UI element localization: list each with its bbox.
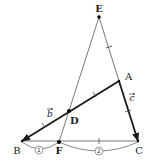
point-F — [57, 140, 61, 144]
point-D — [67, 109, 71, 113]
point-E — [97, 15, 101, 19]
label-F: F — [55, 145, 62, 156]
point-B — [21, 140, 23, 142]
label-B: B — [13, 145, 20, 156]
geometry-diagram: 1 2 E A D B F C b c — [0, 0, 151, 164]
point-A — [118, 80, 120, 82]
ratio-label-FC: 2 — [97, 147, 101, 154]
label-A: A — [124, 71, 133, 82]
label-D: D — [70, 115, 79, 126]
label-E: E — [95, 3, 103, 14]
segment-EC — [99, 17, 119, 81]
label-vector-b: b — [47, 109, 53, 119]
label-C: C — [135, 145, 143, 156]
point-C — [137, 140, 139, 142]
segment-EF — [59, 17, 99, 142]
ratio-label-BF: 1 — [37, 146, 41, 153]
